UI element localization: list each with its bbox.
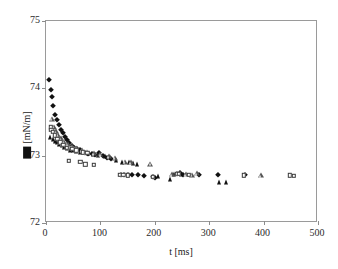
data-point-open-triangle (112, 155, 118, 160)
data-point-open-square (67, 159, 71, 163)
x-axis-tick (318, 221, 319, 225)
y-axis-units-label: [mN/m] (21, 111, 32, 143)
y-axis-tick-label: 72 (14, 217, 40, 227)
data-point-open-square (177, 172, 181, 176)
x-axis-tick-label: 300 (191, 228, 225, 238)
data-point-open-square (92, 163, 96, 167)
y-axis-tick-label: 74 (14, 82, 40, 92)
data-point-open-square (83, 162, 87, 166)
y-axis-tick (42, 21, 46, 22)
data-point-open-triangle (147, 161, 153, 166)
data-point-filled-diamond (50, 103, 56, 109)
data-point-open-triangle (49, 116, 55, 121)
data-point-open-square (64, 145, 68, 149)
data-point-open-square (291, 174, 295, 178)
data-point-open-triangle (194, 171, 200, 176)
x-axis-tick-label: 200 (137, 228, 171, 238)
data-point-filled-diamond (48, 87, 54, 93)
data-point-open-square (186, 172, 190, 176)
data-point-open-triangle (91, 150, 97, 155)
data-point-open-square (78, 160, 82, 164)
x-axis-title: t [ms] (45, 246, 317, 257)
data-series-layer (46, 21, 316, 221)
data-point-open-square (125, 173, 129, 177)
x-axis-tick (209, 221, 210, 225)
x-axis-tick-label: 400 (246, 228, 280, 238)
x-axis-tick (46, 221, 47, 225)
data-point-filled-triangle (168, 176, 172, 181)
data-point-filled-diamond (215, 171, 221, 177)
data-point-filled-diamond (46, 76, 52, 82)
data-point-filled-diamond (141, 173, 147, 179)
data-point-filled-triangle (224, 179, 228, 184)
data-point-open-triangle (97, 152, 103, 157)
data-point-open-square (85, 151, 89, 155)
data-point-filled-triangle (217, 179, 221, 184)
data-point-open-square (150, 174, 154, 178)
y-axis-tick (42, 88, 46, 89)
x-axis-tick (100, 221, 101, 225)
x-axis-tick-label: 100 (82, 228, 116, 238)
data-point-filled-triangle (135, 161, 139, 166)
plot-area (45, 20, 317, 222)
y-axis-tick-label: 73 (14, 150, 40, 160)
data-point-filled-diamond (49, 94, 55, 100)
y-axis-tick-label: 75 (14, 15, 40, 25)
data-point-open-triangle (128, 160, 134, 165)
data-point-open-square (74, 148, 78, 152)
y-axis-tick (42, 156, 46, 157)
data-point-open-square (242, 173, 246, 177)
data-point-open-triangle (258, 173, 264, 178)
x-axis-tick (264, 221, 265, 225)
data-point-filled-triangle (156, 173, 160, 178)
x-axis-tick (155, 221, 156, 225)
figure-container: [mN/m] t [ms] 727374750100200300400500 (0, 0, 338, 269)
x-axis-tick-label: 0 (28, 228, 62, 238)
x-axis-tick-label: 500 (300, 228, 334, 238)
